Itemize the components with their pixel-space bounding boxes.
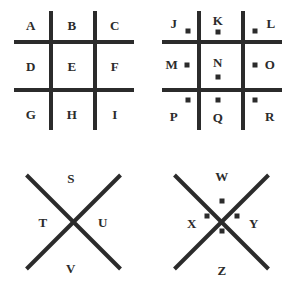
cipher-letter-y: Y bbox=[249, 217, 259, 230]
cipher-dot-k bbox=[216, 30, 221, 35]
cipher-letter-d: D bbox=[26, 60, 36, 73]
cipher-letter-c: C bbox=[110, 19, 120, 32]
cipher-letter-r: R bbox=[265, 110, 275, 123]
cipher-dot-j bbox=[186, 29, 191, 34]
cipher-letter-s: S bbox=[67, 172, 75, 185]
cipher-letter-b: B bbox=[67, 19, 76, 32]
cipher-letter-j: J bbox=[171, 17, 178, 30]
grid-line-vertical-left bbox=[49, 11, 53, 130]
cipher-letter-g: G bbox=[26, 108, 37, 121]
cipher-dot-m bbox=[185, 63, 190, 68]
panel-grid-plain: A B C D E F G H I bbox=[0, 0, 148, 143]
cipher-dot-p bbox=[186, 98, 191, 103]
panel-cross-plain: S T U V bbox=[0, 143, 148, 285]
cipher-letter-v: V bbox=[66, 262, 76, 275]
cipher-letter-q: Q bbox=[213, 111, 224, 124]
cipher-dot-l bbox=[253, 29, 258, 34]
cipher-dot-z bbox=[220, 229, 225, 234]
grid-line-horizontal-top bbox=[14, 40, 134, 44]
grid-line-vertical-right bbox=[241, 11, 245, 130]
cipher-dot-r bbox=[253, 98, 258, 103]
cipher-letter-m: M bbox=[166, 58, 179, 71]
cipher-letter-w: W bbox=[215, 170, 229, 183]
cipher-letter-l: L bbox=[266, 17, 275, 30]
cipher-letter-z: Z bbox=[217, 264, 226, 277]
cipher-letter-x: X bbox=[187, 217, 197, 230]
cipher-dot-n bbox=[216, 75, 221, 80]
cipher-letter-e: E bbox=[67, 60, 76, 73]
cipher-letter-p: P bbox=[170, 110, 178, 123]
grid-line-vertical-right bbox=[93, 11, 97, 130]
cipher-dot-q bbox=[216, 98, 221, 103]
cipher-letter-i: I bbox=[112, 108, 118, 121]
panel-grid-dotted: J K L M N O P Q R bbox=[148, 0, 296, 143]
cipher-dot-x bbox=[205, 214, 210, 219]
grid-line-horizontal-top bbox=[162, 40, 282, 44]
grid-line-horizontal-bottom bbox=[14, 88, 134, 92]
cipher-letter-n: N bbox=[213, 56, 223, 69]
cipher-letter-u: U bbox=[98, 216, 108, 229]
pigpen-cipher-key-diagram: A B C D E F G H I J K L M N O P Q R bbox=[0, 0, 296, 285]
cipher-dot-w bbox=[220, 199, 225, 204]
panel-cross-dotted: W X Y Z bbox=[148, 143, 296, 285]
cipher-letter-a: A bbox=[26, 19, 36, 32]
grid-line-horizontal-bottom bbox=[162, 88, 282, 92]
cipher-letter-k: K bbox=[213, 14, 224, 27]
cipher-dot-o bbox=[253, 63, 258, 68]
cipher-letter-o: O bbox=[265, 58, 276, 71]
grid-line-vertical-left bbox=[197, 11, 201, 130]
cipher-letter-f: F bbox=[111, 60, 119, 73]
cipher-letter-h: H bbox=[67, 108, 78, 121]
cipher-letter-t: T bbox=[38, 216, 47, 229]
cipher-dot-y bbox=[235, 214, 240, 219]
